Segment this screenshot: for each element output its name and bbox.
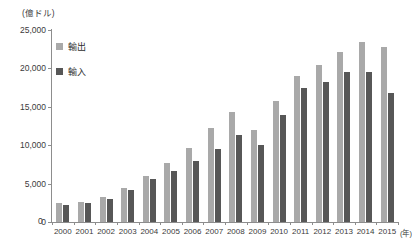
bar-group	[160, 163, 182, 222]
legend-swatch-export-icon	[56, 43, 63, 50]
x-tick-label: 2011	[292, 227, 309, 236]
y-tick-label: 15,000	[20, 102, 46, 112]
x-tick-mark	[312, 222, 313, 225]
bar-import	[171, 171, 177, 222]
bar-import	[63, 205, 69, 222]
bar-export	[381, 47, 387, 222]
x-tick-mark	[160, 222, 161, 225]
x-tick-label: 2010	[270, 227, 288, 236]
y-tick-label: 20,000	[20, 63, 46, 73]
bar-export	[337, 52, 343, 222]
bar-export	[273, 101, 279, 222]
bar-export	[251, 130, 257, 222]
bar-group	[117, 188, 139, 222]
x-axis-title: (年)	[400, 227, 412, 238]
bar-group	[268, 101, 290, 222]
bar-group	[182, 148, 204, 222]
bar-group	[74, 202, 96, 222]
y-axis-unit-label: (億ドル)	[22, 6, 55, 18]
x-tick-label: 2014	[357, 227, 375, 236]
bar-export	[229, 112, 235, 222]
bar-group	[333, 52, 355, 222]
x-tick-mark	[74, 222, 75, 225]
bar-group	[247, 130, 269, 222]
x-tick-label: 2015	[378, 227, 396, 236]
x-tick-label: 2000	[54, 227, 72, 236]
x-tick-label: 2009	[249, 227, 267, 236]
x-tick-label: 2013	[335, 227, 353, 236]
bar-export	[208, 128, 214, 222]
bar-group	[225, 112, 247, 222]
bar-group	[376, 47, 398, 222]
chart-legend: 輸出 輸入	[56, 40, 86, 90]
bar-import	[301, 88, 307, 222]
x-tick-label: 2012	[313, 227, 331, 236]
y-tick-mark	[48, 184, 52, 185]
bar-import	[215, 149, 221, 222]
bar-group	[290, 76, 312, 222]
x-tick-label: 2006	[184, 227, 202, 236]
x-tick-mark	[52, 222, 53, 225]
bar-group	[95, 197, 117, 222]
x-tick-label: 2005	[162, 227, 180, 236]
y-tick-label: 5,000	[25, 179, 46, 189]
bar-import	[388, 93, 394, 222]
bar-export	[100, 197, 106, 222]
y-tick-mark	[48, 145, 52, 146]
y-tick-label: 10,000	[20, 140, 46, 150]
bar-export	[56, 203, 62, 222]
y-tick-mark	[48, 30, 52, 31]
x-tick-mark	[139, 222, 140, 225]
bar-import	[258, 145, 264, 222]
x-tick-label: 2001	[76, 227, 94, 236]
bar-export	[78, 202, 84, 222]
x-tick-mark	[225, 222, 226, 225]
bar-group	[355, 42, 377, 222]
legend-label-import: 輸入	[68, 65, 86, 78]
bar-group	[312, 65, 334, 222]
bar-export	[316, 65, 322, 222]
bar-export	[294, 76, 300, 222]
x-tick-mark	[117, 222, 118, 225]
bar-import	[193, 161, 199, 222]
legend-item-export: 輸出	[56, 40, 86, 53]
bar-import	[344, 72, 350, 222]
bar-group	[203, 128, 225, 222]
x-tick-mark	[398, 222, 399, 225]
bar-import	[280, 115, 286, 222]
bar-import	[366, 72, 372, 222]
bar-import	[236, 135, 242, 222]
x-tick-label: 2007	[205, 227, 223, 236]
x-tick-mark	[182, 222, 183, 225]
x-tick-mark	[355, 222, 356, 225]
bar-export	[186, 148, 192, 222]
plot-area: 05,00010,00015,00020,00025,000	[52, 30, 398, 222]
bar-export	[359, 42, 365, 222]
x-tick-label: 2002	[97, 227, 115, 236]
x-tick-mark	[203, 222, 204, 225]
x-tick-mark	[95, 222, 96, 225]
bar-import	[85, 203, 91, 222]
bar-export	[143, 176, 149, 222]
x-tick-mark	[333, 222, 334, 225]
x-tick-mark	[376, 222, 377, 225]
legend-label-export: 輸出	[68, 40, 86, 53]
y-tick-mark	[48, 68, 52, 69]
y-zero-label: 0	[38, 216, 43, 226]
x-tick-label: 2003	[119, 227, 137, 236]
y-tick-label: 25,000	[20, 25, 46, 35]
x-tick-mark	[268, 222, 269, 225]
bar-import	[150, 179, 156, 222]
bar-import	[323, 82, 329, 222]
bar-group	[139, 176, 161, 222]
y-tick-mark	[48, 107, 52, 108]
bar-import	[128, 190, 134, 222]
x-tick-mark	[290, 222, 291, 225]
legend-item-import: 輸入	[56, 65, 86, 78]
bar-export	[164, 163, 170, 222]
x-tick-label: 2008	[227, 227, 245, 236]
legend-swatch-import-icon	[56, 68, 63, 75]
bar-export	[121, 188, 127, 222]
bar-import	[107, 199, 113, 222]
